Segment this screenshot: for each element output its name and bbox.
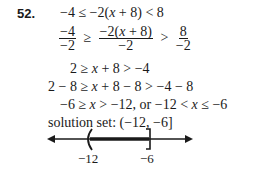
relation: > [160,31,168,45]
step-1: −4 ≤ −2(x + 8) < 8 [60,6,164,20]
fraction-right: 8 −2 [176,25,191,52]
left-arrow-icon [47,135,55,143]
relation: ≥ [83,31,91,45]
fraction-left: −4 −2 [59,25,76,52]
denominator: −2 [118,39,133,52]
fraction-middle: −2(x + 8) −2 [99,25,153,52]
step-3: 2 ≥ x + 8 > −4 [70,62,150,76]
step-5: −6 ≥ x > −12, or −12 < x ≤ −6 [60,98,227,112]
numerator: −2(x + 8) [99,25,153,39]
numerator: −4 [59,25,76,39]
step-2-fractions: −4 −2 ≥ −2(x + 8) −2 > 8 −2 [59,25,191,52]
right-arrow-icon [185,135,193,143]
label-left-endpoint: −12 [78,151,98,167]
label-right-endpoint: −6 [140,151,154,167]
number-line [0,128,260,152]
denominator: −2 [176,39,191,52]
step-4: 2 − 8 ≥ x + 8 − 8 > −4 − 8 [48,80,193,94]
denominator: −2 [60,39,75,52]
problem-number: 52. [17,6,35,21]
numerator: 8 [179,25,188,39]
